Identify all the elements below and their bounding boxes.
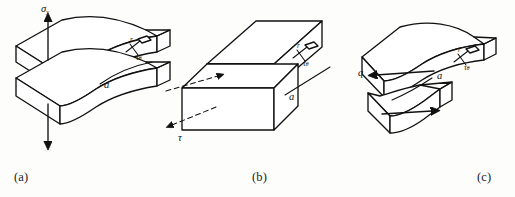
panel-c-load-label: q (358, 67, 363, 78)
figure-canvas: σy a r τθ (0, 0, 515, 197)
panel-a-load-label: σy (41, 3, 49, 15)
svg-text:τθ: τθ (464, 64, 470, 72)
svg-text:τθ: τθ (136, 54, 142, 62)
panel-b: τ a r τθ (166, 21, 330, 143)
panel-b-load-label: τ (178, 132, 183, 143)
panel-caption-c: (c) (477, 170, 491, 185)
panel-caption-a: (a) (14, 170, 28, 185)
panel-a: σy a r τθ (16, 3, 170, 142)
fracture-modes-figure: σy a r τθ (0, 0, 515, 197)
svg-text:r: r (458, 46, 461, 54)
svg-text:τθ: τθ (303, 60, 309, 68)
svg-text:r: r (297, 42, 300, 50)
panel-b-lower-block (182, 64, 298, 130)
panel-c: q a r τθ (358, 23, 496, 133)
svg-text:r: r (130, 36, 133, 44)
panel-b-crack-length-label: a (289, 91, 294, 102)
panel-caption-b: (b) (252, 170, 267, 185)
panel-c-crack-length-label: a (437, 70, 442, 81)
panel-c-upper-block (362, 23, 496, 97)
